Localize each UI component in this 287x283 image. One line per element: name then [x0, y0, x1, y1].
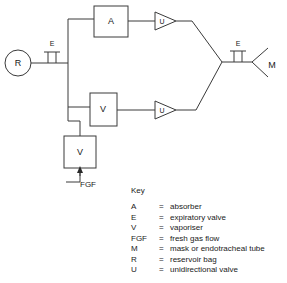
key-title: Key [131, 185, 287, 196]
absorber: A [94, 6, 128, 37]
reservoir-bag: R [5, 50, 31, 76]
wire-upper-diagonal-to-junction [192, 21, 222, 62]
key-equals: = [159, 223, 170, 234]
key-symbol: FGF [131, 234, 159, 245]
expiratory-valve-right: E [230, 40, 246, 62]
key-description: absorber [170, 202, 202, 213]
key-symbol: M [131, 244, 159, 255]
key-description: reservoir bag [170, 255, 217, 266]
key-symbol: E [131, 213, 159, 224]
wire-lower-diagonal-to-junction [196, 62, 222, 110]
absorber-label: A [108, 16, 114, 26]
key-symbol: A [131, 202, 159, 213]
vaporiser-fgf: V [64, 136, 96, 168]
key-entry-unidirectional-valve: U = unidirectional valve [131, 265, 287, 276]
expiratory-valve-left-label: E [50, 40, 55, 47]
mask-cone-upper [252, 48, 268, 62]
key-equals: = [159, 213, 170, 224]
key-equals: = [159, 244, 170, 255]
key-entry-absorber: A = absorber [131, 202, 287, 213]
key-entry-fresh-gas-flow: FGF = fresh gas flow [131, 234, 287, 245]
unidirectional-valve-upper: U [155, 12, 176, 30]
fgf-label: FGF [80, 180, 96, 189]
vaporiser-inline-label: V [100, 104, 106, 114]
vaporiser-fgf-label: V [77, 147, 83, 157]
reservoir-bag-label: R [15, 58, 22, 68]
vaporiser-inline: V [90, 93, 117, 126]
mask-cone-lower [252, 62, 268, 77]
key-entry-expiratory-valve: E = expiratory valve [131, 213, 287, 224]
key-equals: = [159, 255, 170, 266]
unidirectional-valve-upper-label: U [159, 18, 164, 25]
fgf-arrow-icon [77, 166, 83, 173]
key-description: vaporiser [170, 223, 203, 234]
key-description: mask or endotracheal tube [170, 244, 265, 255]
expiratory-valve-right-label: E [236, 40, 241, 47]
key-symbol: V [131, 223, 159, 234]
key-equals: = [159, 234, 170, 245]
key-equals: = [159, 265, 170, 276]
key-legend: Key A = absorber E = expiratory valve V … [131, 185, 287, 276]
unidirectional-valve-lower: U [155, 101, 176, 119]
key-entry-reservoir-bag: R = reservoir bag [131, 255, 287, 266]
key-description: unidirectional valve [170, 265, 238, 276]
key-entry-mask: M = mask or endotracheal tube [131, 244, 287, 255]
key-description: fresh gas flow [170, 234, 219, 245]
mask: M [252, 48, 276, 77]
mask-label: M [268, 60, 276, 70]
key-symbol: U [131, 265, 159, 276]
uvalve-upper-triangle [155, 12, 176, 30]
uvalve-lower-triangle [155, 101, 176, 119]
key-description: expiratory valve [170, 213, 226, 224]
diagram-page: R E A U V U [0, 0, 287, 283]
expiratory-valve-left: E [44, 40, 60, 63]
key-symbol: R [131, 255, 159, 266]
unidirectional-valve-lower-label: U [159, 107, 164, 114]
breathing-circuit-diagram: R E A U V U [0, 0, 287, 190]
key-entry-vaporiser: V = vaporiser [131, 223, 287, 234]
key-equals: = [159, 202, 170, 213]
